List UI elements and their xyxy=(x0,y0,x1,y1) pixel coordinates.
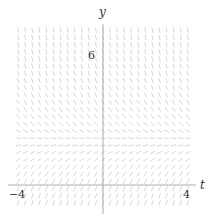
slope-segment xyxy=(150,158,154,162)
slope-segment xyxy=(81,85,83,90)
slope-segment xyxy=(117,35,118,40)
slope-segment xyxy=(17,71,19,76)
slope-segment xyxy=(24,78,26,83)
slope-segment xyxy=(94,122,98,126)
slope-segment xyxy=(179,158,183,162)
slope-segment xyxy=(173,200,175,205)
slope-segment xyxy=(123,172,126,177)
slope-segment xyxy=(166,49,167,54)
slope-segment xyxy=(166,28,167,33)
slope-segment xyxy=(109,93,111,98)
slope-segment xyxy=(129,122,133,126)
slope-segment xyxy=(151,179,154,184)
slope-segment xyxy=(123,179,126,184)
slope-segment xyxy=(45,107,48,112)
slope-segment xyxy=(143,145,148,146)
slope-segment xyxy=(39,56,40,61)
slope-segment xyxy=(144,200,146,205)
slope-segment xyxy=(179,100,182,105)
slope-segment xyxy=(109,56,110,61)
slope-segment xyxy=(173,35,174,40)
slope-segment xyxy=(58,138,63,139)
slope-segment xyxy=(158,165,162,169)
slope-segment xyxy=(107,138,112,139)
slope-segment xyxy=(95,35,96,40)
slope-segment xyxy=(30,138,35,139)
slope-segment xyxy=(60,78,62,83)
slope-segment xyxy=(144,115,148,119)
slope-segment xyxy=(31,107,34,112)
slope-field-chart: y t −4 4 6 xyxy=(0,0,214,223)
slope-segment xyxy=(59,186,61,191)
slope-segment xyxy=(30,122,34,126)
slope-segment xyxy=(44,158,48,162)
slope-segment xyxy=(53,71,55,76)
slope-segment xyxy=(67,56,68,61)
slope-segment xyxy=(159,200,161,205)
slope-segment xyxy=(31,93,33,98)
slope-segment xyxy=(179,115,183,119)
slope-segment xyxy=(172,107,175,112)
slope-segment xyxy=(23,158,27,162)
slope-segment xyxy=(159,42,160,47)
slope-segment xyxy=(32,56,33,61)
slope-segment xyxy=(80,115,84,119)
slope-segment xyxy=(38,172,41,177)
slope-segment xyxy=(67,28,68,33)
slope-segment xyxy=(108,122,112,126)
slope-segment xyxy=(178,130,183,132)
slope-segment xyxy=(165,107,168,112)
slope-segment xyxy=(53,49,54,54)
slope-segment xyxy=(81,42,82,47)
slope-segment xyxy=(16,130,21,132)
slope-segment xyxy=(109,100,112,105)
slope-segment xyxy=(31,100,34,105)
slope-segment xyxy=(158,179,161,184)
slope-segment xyxy=(53,200,55,205)
slope-segment xyxy=(186,179,189,184)
slope-segment xyxy=(88,71,90,76)
slope-segment xyxy=(115,158,119,162)
slope-segment xyxy=(145,28,146,33)
slope-segment xyxy=(131,42,132,47)
slope-segment xyxy=(37,138,42,139)
slope-segment xyxy=(187,42,188,47)
slope-segment xyxy=(38,115,42,119)
slope-segment xyxy=(144,78,146,83)
slope-segment xyxy=(66,179,69,184)
slope-segment xyxy=(158,186,160,191)
slope-segment xyxy=(38,85,40,90)
slope-segment xyxy=(165,93,167,98)
slope-segment xyxy=(81,71,83,76)
slope-segment xyxy=(25,56,26,61)
slope-segment xyxy=(52,115,56,119)
slope-segment xyxy=(88,179,91,184)
slope-segment xyxy=(31,115,35,119)
slope-segment xyxy=(30,151,35,153)
slope-segment xyxy=(143,138,148,139)
slope-segment xyxy=(137,186,139,191)
slope-segment xyxy=(45,100,48,105)
slope-segment xyxy=(136,138,141,139)
slope-segment xyxy=(74,42,75,47)
slope-segment xyxy=(123,85,125,90)
slope-segment xyxy=(93,151,98,153)
slope-segment xyxy=(73,122,77,126)
slope-segment xyxy=(79,138,84,139)
slope-segment xyxy=(138,56,139,61)
slope-segment xyxy=(151,93,153,98)
slope-segment xyxy=(108,151,113,153)
slope-segment xyxy=(38,193,40,198)
slope-segment xyxy=(164,138,169,139)
slope-segment xyxy=(144,107,147,112)
slope-segment xyxy=(136,130,141,132)
slope-segment xyxy=(17,64,18,69)
slope-segment xyxy=(74,49,75,54)
slope-segment xyxy=(18,35,19,40)
slope-segment xyxy=(87,158,91,162)
slope-segment xyxy=(46,28,47,33)
slope-segment xyxy=(45,165,49,169)
slope-segment xyxy=(152,71,154,76)
slope-segment xyxy=(123,193,125,198)
slope-segment xyxy=(144,186,146,191)
